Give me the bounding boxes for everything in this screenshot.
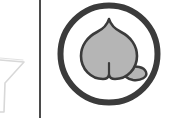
left-pane bbox=[0, 0, 40, 118]
screenshot-canvas bbox=[0, 0, 171, 118]
peach-badge-graphic bbox=[57, 2, 161, 106]
ghost-funnel-outline bbox=[0, 52, 26, 114]
clipped-adjacent-glyph bbox=[0, 52, 26, 114]
circular-badge[interactable] bbox=[57, 2, 161, 106]
right-pane bbox=[41, 0, 171, 118]
